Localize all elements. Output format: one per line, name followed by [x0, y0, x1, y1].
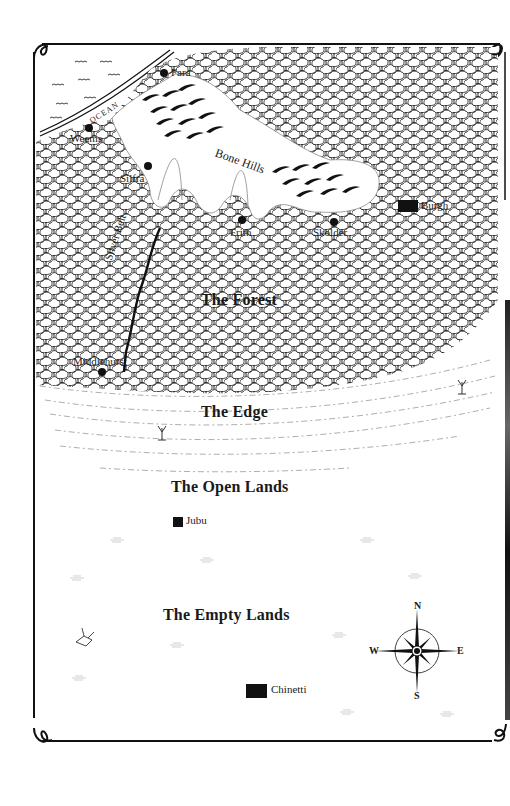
label-the-empty-lands: The Empty Lands	[163, 606, 290, 624]
label-burgh: Burgh	[421, 199, 448, 211]
compass-north-label: N	[414, 600, 421, 611]
settlement-marker-silfra[interactable]	[144, 162, 152, 170]
label-skolder: Skolder	[313, 226, 347, 238]
settlement-marker-weems[interactable]	[85, 124, 93, 132]
page-edge-shadow	[505, 300, 510, 720]
label-the-forest: The Forest	[201, 291, 277, 309]
label-silfra: Silfra	[120, 172, 144, 184]
label-jubu: Jubu	[186, 514, 207, 526]
settlement-marker-fara[interactable]	[160, 69, 168, 77]
animal-skull-icon	[76, 628, 94, 646]
label-weems: Weems	[70, 132, 102, 144]
castle-icon-burgh[interactable]	[398, 200, 418, 212]
compass-east-label: E	[457, 645, 464, 656]
forest-area	[36, 47, 498, 393]
settlement-marker-jubu[interactable]	[173, 517, 183, 527]
compass-rose-icon	[375, 609, 459, 693]
label-the-edge: The Edge	[201, 403, 268, 421]
compass-south-label: S	[414, 690, 420, 701]
label-frith: Frith	[230, 226, 251, 238]
compass-west-label: W	[369, 645, 379, 656]
settlement-marker-skolder[interactable]	[330, 218, 338, 226]
label-middlehurst: Middlehurst	[73, 355, 127, 367]
label-the-open-lands: The Open Lands	[171, 478, 289, 496]
settlement-marker-middlehurst[interactable]	[98, 368, 106, 376]
label-fara: Fara	[171, 66, 191, 78]
settlement-marker-frith[interactable]	[238, 216, 246, 224]
label-chinetti: Chinetti	[271, 683, 306, 695]
castle-icon-chinetti[interactable]	[246, 684, 267, 698]
